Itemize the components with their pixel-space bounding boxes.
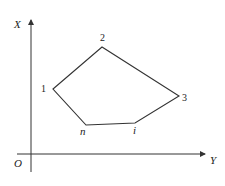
vertex-label-1: 1 xyxy=(41,83,46,94)
vertex-label-n: n xyxy=(80,125,86,137)
vertex-label-3: 3 xyxy=(182,92,187,103)
vertex-label-i: i xyxy=(133,124,136,136)
diagram-canvas: X Y O 1 2 3 i n xyxy=(0,0,225,186)
origin-label: O xyxy=(14,157,22,169)
vertical-axis-label: X xyxy=(13,18,22,30)
horizontal-axis-label: Y xyxy=(210,154,218,166)
polygon-outline xyxy=(53,47,179,125)
vertex-label-2: 2 xyxy=(100,32,105,43)
